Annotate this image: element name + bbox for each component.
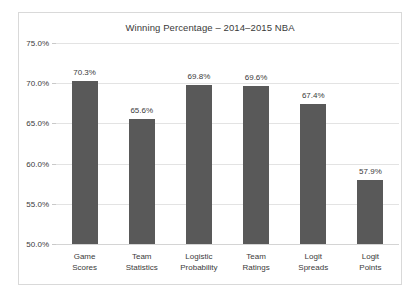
gridline [56, 244, 399, 245]
x-axis-category-label-line: Game [72, 252, 97, 263]
x-axis-category-label: LogisticProbability [180, 252, 217, 273]
bar-value-label: 65.6% [130, 106, 153, 115]
y-axis-tick-label: 50.0% [26, 240, 49, 249]
bar-value-label: 57.9% [359, 167, 382, 176]
y-axis-tick-label: 60.0% [26, 159, 49, 168]
bar[interactable] [357, 180, 383, 244]
bar[interactable] [243, 86, 269, 244]
bar-value-label: 69.6% [245, 73, 268, 82]
x-axis-category-label: LogitSpreads [298, 252, 328, 273]
bar-value-label: 67.4% [302, 91, 325, 100]
bar-group: 67.4%LogitSpreads [285, 43, 342, 244]
y-axis-tick-label: 65.0% [26, 119, 49, 128]
y-axis-tick-mark [52, 244, 56, 245]
x-axis-category-label-line: Ratings [243, 263, 270, 274]
x-axis-category-label-line: Points [359, 263, 381, 274]
bar[interactable] [72, 81, 98, 244]
x-axis-category-label-line: Logit [298, 252, 328, 263]
x-axis-category-label-line: Team [243, 252, 270, 263]
bar-group: 69.8%LogisticProbability [170, 43, 227, 244]
x-axis-category-label-line: Probability [180, 263, 217, 274]
bar-group: 57.9%LogitPoints [342, 43, 399, 244]
y-axis-tick-label: 75.0% [26, 39, 49, 48]
x-axis-category-label-line: Statistics [126, 263, 158, 274]
x-axis-category-label-line: Scores [72, 263, 97, 274]
x-axis-category-label-line: Logit [359, 252, 381, 263]
chart-title: Winning Percentage – 2014–2015 NBA [19, 22, 401, 33]
plot-area: 75.0%70.0%65.0%60.0%55.0%50.0%70.3%GameS… [56, 43, 399, 244]
bar[interactable] [186, 85, 212, 244]
x-axis-category-label: GameScores [72, 252, 97, 273]
bar[interactable] [129, 119, 155, 244]
bar-group: 65.6%TeamStatistics [113, 43, 170, 244]
x-axis-category-label: LogitPoints [359, 252, 381, 273]
x-axis-category-label: TeamRatings [243, 252, 270, 273]
x-axis-category-label-line: Spreads [298, 263, 328, 274]
bar-group: 69.6%TeamRatings [228, 43, 285, 244]
x-axis-category-label: TeamStatistics [126, 252, 158, 273]
y-axis-tick-label: 70.0% [26, 79, 49, 88]
bar-value-label: 70.3% [73, 68, 96, 77]
bar-value-label: 69.8% [188, 72, 211, 81]
y-axis-tick-label: 55.0% [26, 199, 49, 208]
x-axis-category-label-line: Team [126, 252, 158, 263]
bar[interactable] [300, 104, 326, 244]
chart-container: Winning Percentage – 2014–2015 NBA 75.0%… [18, 12, 402, 285]
bar-group: 70.3%GameScores [56, 43, 113, 244]
x-axis-category-label-line: Logistic [180, 252, 217, 263]
